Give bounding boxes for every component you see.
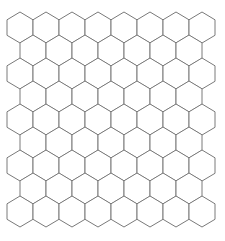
- hexagon-grid: [0, 0, 225, 241]
